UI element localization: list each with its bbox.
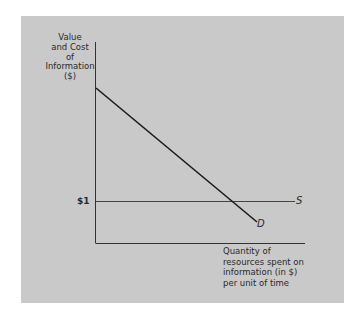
y-axis-label: Value and Cost of Information ($) [40, 33, 100, 82]
y-label-line: ($) [40, 72, 100, 82]
supply-curve-label: S [296, 195, 302, 206]
y-tick-label: $1 [77, 196, 90, 206]
x-label-line: information (in $) [223, 267, 323, 278]
x-label-line: Quantity of [223, 246, 323, 257]
x-axis-label: Quantity of resources spent on informati… [223, 246, 323, 288]
demand-curve-label: D [257, 218, 265, 229]
x-label-line: resources spent on [223, 257, 323, 268]
x-label-line: per unit of time [223, 278, 323, 289]
